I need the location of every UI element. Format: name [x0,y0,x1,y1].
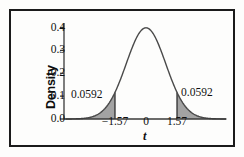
y-tick-label-0.3: 0.3 [37,44,65,56]
x-axis-title: t [143,130,146,143]
y-tick-label-0.0: 0.0 [37,113,65,125]
left-tail-area-label: 0.0592 [71,89,103,101]
figure-root: 0.4 0.3 0.2 0.1 0.0 Density 0.0592 0.059… [0,0,244,157]
density-curve [66,28,226,119]
y-tick-label-0.4: 0.4 [37,22,65,34]
right-tail-area-label: 0.0592 [181,87,213,99]
chart-frame: 0.4 0.3 0.2 0.1 0.0 Density 0.0592 0.059… [9,9,235,147]
x-tick-label-1.57: 1.57 [159,116,195,128]
y-axis-title: Density [45,65,58,109]
